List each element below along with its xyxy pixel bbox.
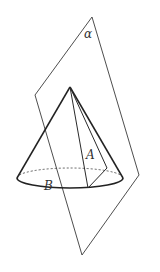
label-b: B: [43, 179, 53, 193]
cone-plane-diagram: α A B: [0, 0, 160, 272]
cone-base-front: [17, 178, 123, 188]
label-alpha: α: [84, 27, 92, 41]
cone-base-back-dashed: [17, 168, 123, 178]
plane-alpha: [35, 17, 139, 255]
label-a: A: [85, 148, 95, 162]
cone-left-generator: [17, 87, 70, 178]
